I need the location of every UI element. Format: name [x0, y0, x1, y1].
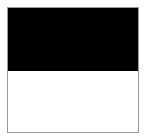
- color-swatch: [7, 7, 139, 133]
- swatch-top-black: [8, 8, 138, 71]
- swatch-bottom-white: [8, 71, 138, 132]
